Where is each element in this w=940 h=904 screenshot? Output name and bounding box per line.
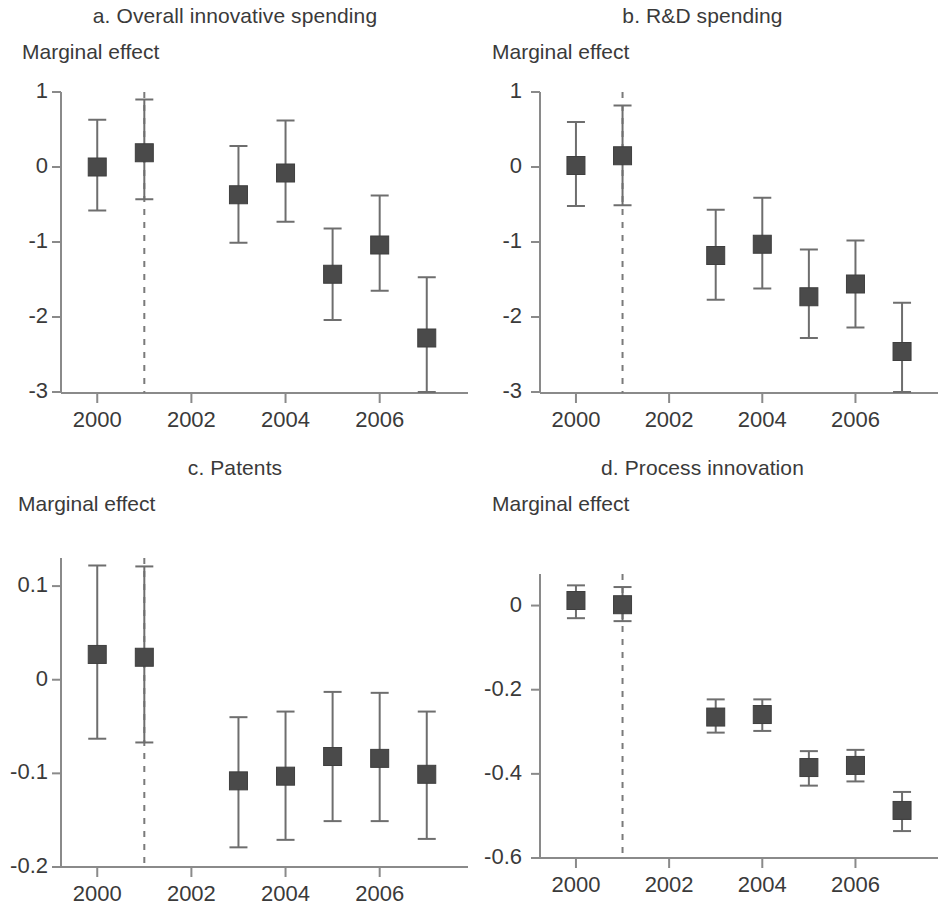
data-point-marker	[567, 592, 585, 610]
data-point-group	[277, 712, 295, 840]
data-point-marker	[229, 772, 247, 790]
data-point-marker	[371, 236, 389, 254]
data-point-marker	[893, 801, 911, 819]
data-point-marker	[88, 158, 106, 176]
data-point-marker	[753, 235, 771, 253]
panel-c-plot-area	[0, 452, 470, 904]
y-tick-label: -1	[502, 228, 522, 254]
x-tick-label: 2004	[722, 872, 802, 898]
panel-d-chart	[470, 452, 940, 904]
panel-a-plot-area	[0, 0, 470, 452]
y-tick-label: 0.1	[17, 572, 48, 598]
data-point-group	[800, 751, 818, 786]
data-point-marker	[614, 147, 632, 165]
y-tick-label: -1	[28, 228, 48, 254]
data-point-group	[846, 241, 864, 328]
data-point-group	[371, 693, 389, 821]
panel-c-chart	[0, 452, 470, 904]
x-tick-label: 2002	[629, 872, 709, 898]
y-tick-label: -2	[28, 303, 48, 329]
data-point-marker	[277, 164, 295, 182]
data-point-marker	[707, 708, 725, 726]
x-tick-label: 2002	[629, 407, 709, 433]
data-point-group	[567, 122, 585, 206]
y-tick-label: -3	[502, 378, 522, 404]
data-point-group	[418, 712, 436, 839]
data-point-group	[614, 587, 632, 621]
y-tick-label: -0.4	[484, 760, 522, 786]
data-point-marker	[277, 767, 295, 785]
panel-d: d. Process innovation Marginal effect 0-…	[470, 452, 935, 904]
data-point-group	[707, 699, 725, 732]
panel-a: a. Overall innovative spending Marginal …	[0, 0, 470, 452]
data-point-group	[893, 303, 911, 392]
x-tick-label: 2004	[246, 407, 326, 433]
data-point-group	[277, 121, 295, 222]
x-tick-label: 2000	[536, 872, 616, 898]
data-point-marker	[753, 706, 771, 724]
data-point-marker	[324, 265, 342, 283]
y-tick-label: -0.2	[484, 676, 522, 702]
data-point-group	[800, 250, 818, 339]
y-tick-label: -0.1	[10, 759, 48, 785]
y-tick-label: -0.6	[484, 844, 522, 870]
x-tick-label: 2000	[57, 881, 137, 904]
y-tick-label: 0	[510, 153, 522, 179]
y-tick-label: 0	[36, 666, 48, 692]
data-point-group	[371, 196, 389, 291]
data-point-marker	[846, 756, 864, 774]
data-point-marker	[135, 144, 153, 162]
x-tick-label: 2004	[246, 881, 326, 904]
data-point-group	[418, 277, 436, 392]
y-tick-label: 1	[510, 78, 522, 104]
x-tick-label: 2000	[536, 407, 616, 433]
data-point-marker	[614, 596, 632, 614]
y-tick-label: -2	[502, 303, 522, 329]
x-tick-label: 2002	[151, 881, 231, 904]
x-tick-label: 2000	[57, 407, 137, 433]
data-point-group	[846, 750, 864, 782]
data-point-group	[229, 717, 247, 847]
data-point-marker	[800, 288, 818, 306]
data-point-group	[88, 565, 106, 738]
panel-b-chart	[470, 0, 940, 452]
data-point-marker	[324, 748, 342, 766]
data-point-marker	[229, 186, 247, 204]
data-point-marker	[371, 749, 389, 767]
y-tick-label: -3	[28, 378, 48, 404]
x-tick-label: 2004	[722, 407, 802, 433]
data-point-marker	[135, 648, 153, 666]
data-point-group	[893, 792, 911, 831]
data-point-group	[324, 692, 342, 821]
x-tick-label: 2006	[340, 407, 420, 433]
x-tick-label: 2006	[815, 407, 895, 433]
data-point-group	[753, 699, 771, 731]
panel-a-chart	[0, 0, 470, 452]
panel-d-plot-area	[470, 452, 935, 904]
data-point-group	[707, 210, 725, 300]
panel-c: c. Patents Marginal effect 0.10-0.1-0.22…	[0, 452, 470, 904]
data-point-marker	[893, 343, 911, 361]
x-tick-label: 2002	[151, 407, 231, 433]
data-point-marker	[846, 275, 864, 293]
data-point-group	[229, 146, 247, 243]
data-point-group	[135, 566, 153, 742]
data-point-group	[88, 120, 106, 211]
panel-b-plot-area	[470, 0, 935, 452]
data-point-marker	[567, 157, 585, 175]
y-tick-label: -0.2	[10, 853, 48, 879]
x-tick-label: 2006	[340, 881, 420, 904]
data-point-marker	[418, 765, 436, 783]
y-tick-label: 0	[510, 592, 522, 618]
data-point-group	[324, 229, 342, 321]
x-tick-label: 2006	[815, 872, 895, 898]
data-point-marker	[88, 645, 106, 663]
data-point-group	[614, 106, 632, 206]
data-point-marker	[707, 247, 725, 265]
y-tick-label: 1	[36, 78, 48, 104]
data-point-group	[753, 198, 771, 289]
y-tick-label: 0	[36, 153, 48, 179]
data-point-marker	[418, 329, 436, 347]
panel-b: b. R&D spending Marginal effect 10-1-2-3…	[470, 0, 935, 452]
